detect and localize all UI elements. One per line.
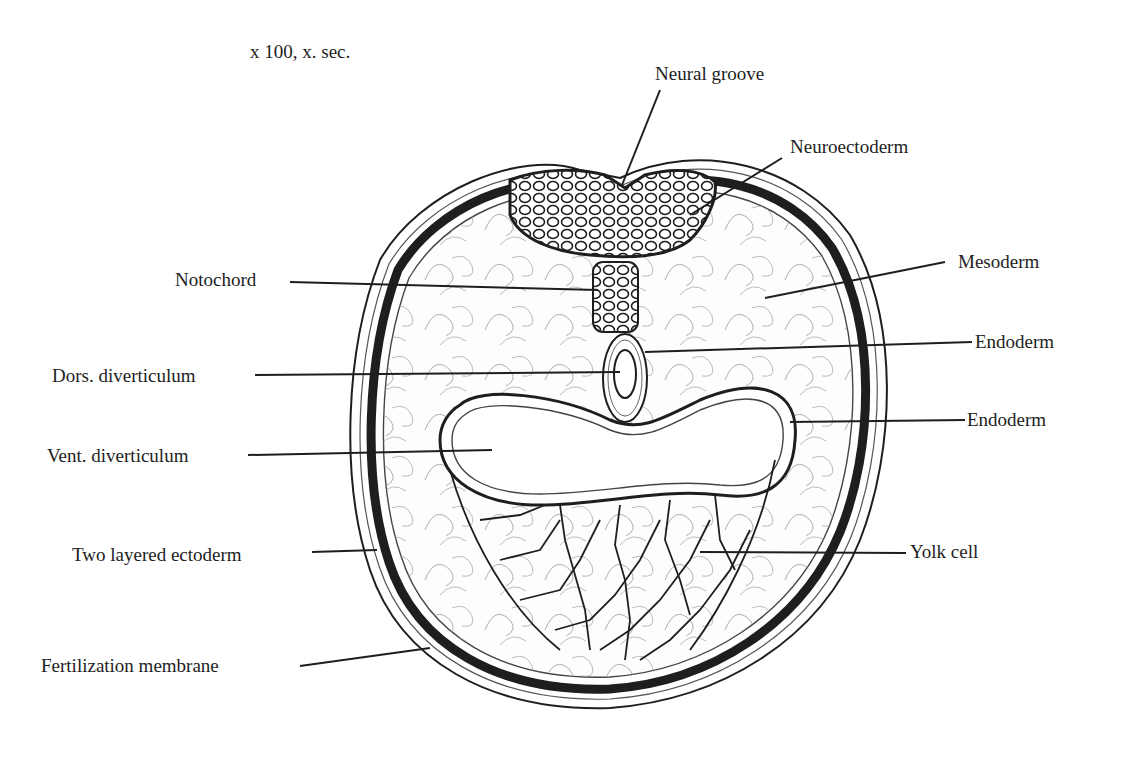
- label-dors-diverticulum: Dors. diverticulum: [52, 366, 196, 385]
- label-mesoderm: Mesoderm: [958, 252, 1039, 271]
- neuroectoderm: [510, 170, 715, 257]
- label-neuroectoderm: Neuroectoderm: [790, 137, 908, 156]
- label-fertilization-membrane: Fertilization membrane: [41, 656, 219, 675]
- magnification-label: x 100, x. sec.: [250, 42, 350, 61]
- notochord: [593, 262, 638, 332]
- label-yolk-cell: Yolk cell: [910, 542, 978, 561]
- label-two-layered-ectoderm: Two layered ectoderm: [72, 545, 242, 564]
- label-notochord: Notochord: [175, 270, 256, 289]
- label-neural-groove: Neural groove: [655, 64, 764, 83]
- dorsal-diverticulum: [603, 334, 647, 422]
- label-endoderm-upper: Endoderm: [975, 332, 1054, 351]
- label-endoderm-lower: Endoderm: [967, 410, 1046, 429]
- label-vent-diverticulum: Vent. diverticulum: [47, 446, 188, 465]
